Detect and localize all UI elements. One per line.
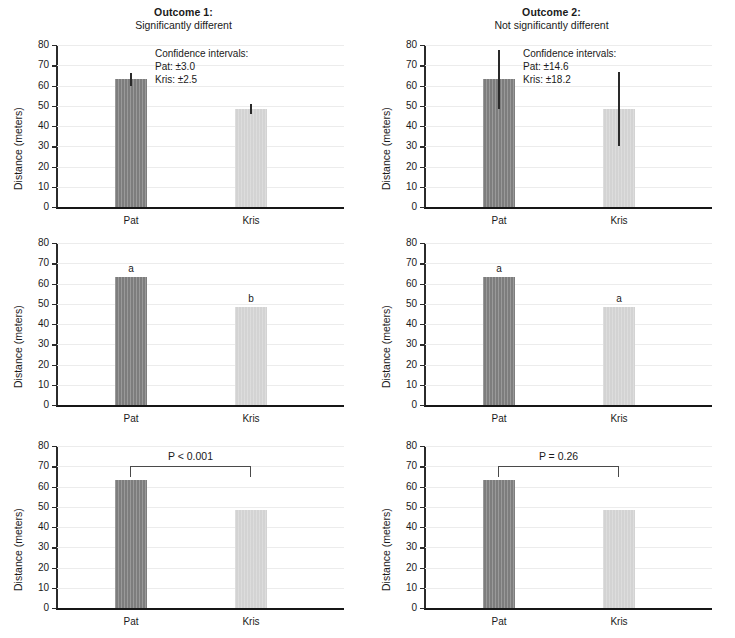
y-tick bbox=[420, 344, 425, 345]
gridline bbox=[425, 365, 712, 366]
y-tick-label: 60 bbox=[27, 482, 49, 492]
panel-bottom-right: Distance (meters) 80 70 60 50 40 bbox=[368, 432, 735, 638]
ci-kris: Kris: ±2.5 bbox=[155, 73, 248, 86]
bracket-leg-left bbox=[130, 466, 131, 477]
error-bar-pat bbox=[498, 50, 499, 109]
y-tick bbox=[420, 385, 425, 386]
y-tick-label: 20 bbox=[27, 563, 49, 573]
title-sub: Not significantly different bbox=[368, 19, 735, 31]
y-tick-label: 30 bbox=[27, 542, 49, 552]
y-tick-label: 30 bbox=[27, 141, 49, 151]
y-tick bbox=[420, 167, 425, 168]
y-tick-label: 70 bbox=[27, 461, 49, 471]
confidence-interval-annotation: Confidence intervals: Pat: ±3.0 Kris: ±2… bbox=[155, 47, 248, 86]
y-tick bbox=[420, 608, 425, 609]
gridline bbox=[57, 126, 344, 127]
y-axis-title: Distance (meters) bbox=[12, 508, 24, 591]
y-tick-label: 30 bbox=[395, 339, 417, 349]
y-tick-label: 60 bbox=[27, 81, 49, 91]
gridline bbox=[57, 45, 344, 46]
p-value-label: P < 0.001 bbox=[130, 450, 251, 462]
plot-area: 80 70 60 50 40 30 20 10 0 P < 0.001 Pat … bbox=[57, 446, 344, 608]
x-label-kris: Kris bbox=[216, 616, 286, 627]
y-tick-label: 20 bbox=[27, 360, 49, 370]
y-tick-label: 0 bbox=[27, 603, 49, 613]
y-tick-label: 20 bbox=[395, 162, 417, 172]
y-tick bbox=[52, 466, 57, 467]
gridline bbox=[57, 385, 344, 386]
y-tick-label: 50 bbox=[27, 101, 49, 111]
y-tick bbox=[420, 146, 425, 147]
y-tick-label: 50 bbox=[27, 502, 49, 512]
y-tick-label: 30 bbox=[395, 141, 417, 151]
bar-pat bbox=[483, 277, 515, 405]
y-tick-label: 70 bbox=[27, 258, 49, 268]
bracket-leg-right bbox=[250, 466, 251, 477]
y-tick bbox=[52, 608, 57, 609]
y-tick bbox=[52, 527, 57, 528]
y-tick-label: 70 bbox=[395, 461, 417, 471]
y-tick bbox=[420, 405, 425, 406]
gridline bbox=[425, 187, 712, 188]
panel-middle-right: Distance (meters) 80 70 60 50 40 bbox=[368, 220, 735, 432]
y-tick bbox=[52, 167, 57, 168]
gridline bbox=[425, 106, 712, 107]
ci-heading: Confidence intervals: bbox=[155, 47, 248, 60]
y-tick-label: 60 bbox=[27, 279, 49, 289]
y-axis-title: Distance (meters) bbox=[380, 305, 392, 388]
y-tick-label: 20 bbox=[395, 563, 417, 573]
y-tick bbox=[52, 446, 57, 447]
y-tick bbox=[420, 207, 425, 208]
y-axis-title: Distance (meters) bbox=[380, 508, 392, 591]
y-tick-label: 80 bbox=[27, 238, 49, 248]
y-tick-label: 50 bbox=[395, 299, 417, 309]
y-tick bbox=[52, 324, 57, 325]
y-tick-label: 50 bbox=[395, 101, 417, 111]
y-tick bbox=[420, 507, 425, 508]
y-tick-label: 70 bbox=[27, 60, 49, 70]
bar-pat bbox=[483, 480, 515, 608]
error-bar-kris bbox=[618, 72, 619, 146]
panel-middle-left: Distance (meters) 80 70 60 50 40 bbox=[0, 220, 367, 432]
y-tick bbox=[420, 568, 425, 569]
error-bar-kris bbox=[250, 104, 251, 114]
error-bar-pat bbox=[130, 73, 131, 85]
y-tick bbox=[420, 86, 425, 87]
x-label-pat: Pat bbox=[96, 616, 166, 627]
y-axis-title: Distance (meters) bbox=[12, 305, 24, 388]
y-tick-label: 10 bbox=[27, 380, 49, 390]
y-tick-label: 40 bbox=[395, 319, 417, 329]
gridline bbox=[57, 243, 344, 244]
letter-annotation-kris: b bbox=[235, 293, 267, 304]
y-tick bbox=[52, 146, 57, 147]
x-axis-line bbox=[424, 405, 712, 408]
y-tick-label: 10 bbox=[27, 583, 49, 593]
gridline bbox=[57, 487, 344, 488]
bar-kris bbox=[235, 307, 267, 405]
gridline bbox=[425, 527, 712, 528]
y-tick bbox=[52, 487, 57, 488]
gridline bbox=[425, 547, 712, 548]
y-tick-label: 40 bbox=[27, 319, 49, 329]
x-axis-line bbox=[56, 207, 344, 210]
y-tick bbox=[420, 263, 425, 264]
y-tick bbox=[420, 446, 425, 447]
letter-annotation-pat: a bbox=[115, 263, 147, 274]
panel-bottom-left: Distance (meters) 80 70 60 50 40 bbox=[0, 432, 367, 638]
gridline bbox=[425, 588, 712, 589]
x-label-pat: Pat bbox=[464, 616, 534, 627]
y-tick bbox=[420, 126, 425, 127]
y-tick-label: 0 bbox=[395, 603, 417, 613]
y-tick bbox=[420, 284, 425, 285]
y-tick-label: 60 bbox=[395, 279, 417, 289]
gridline bbox=[57, 187, 344, 188]
y-tick bbox=[420, 45, 425, 46]
y-tick bbox=[52, 385, 57, 386]
gridline bbox=[57, 527, 344, 528]
plot-area: 80 70 60 50 40 30 20 10 0 a a Pat Kris bbox=[425, 243, 712, 405]
y-tick bbox=[52, 284, 57, 285]
y-tick-label: 0 bbox=[395, 202, 417, 212]
y-tick bbox=[52, 588, 57, 589]
y-tick-label: 80 bbox=[27, 441, 49, 451]
y-tick-label: 40 bbox=[27, 522, 49, 532]
